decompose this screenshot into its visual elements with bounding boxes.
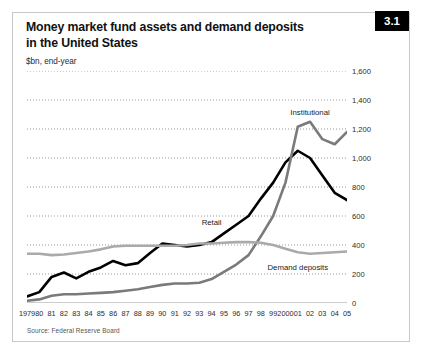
title-line-1: Money market fund assets and demand depo… [26,20,304,34]
x-axis-tick-label: 87 [121,309,129,318]
x-axis-tick-label: 01 [294,309,302,318]
x-axis-tick-label: 88 [134,309,142,318]
y-axis-tick-label: 400 [352,241,365,250]
x-axis-tick-label: 89 [146,309,154,318]
x-axis-tick-label: 83 [72,309,80,318]
x-axis-tick-label: 04 [331,309,339,318]
page-title: Money market fund assets and demand depo… [26,19,356,51]
y-axis-tick-label: 1,400 [352,96,371,105]
x-axis-tick-label: 92 [183,309,191,318]
x-axis-tick-label: 05 [343,309,351,318]
x-axis-ticks: 1979808182838485868788899091929394959697… [0,309,422,323]
y-axis-tick-label: 800 [352,183,365,192]
x-axis-tick-label: 96 [232,309,240,318]
x-axis-tick-label: 1979 [19,309,35,318]
x-axis-tick-label: 86 [109,309,117,318]
x-axis-tick-label: 98 [257,309,265,318]
x-axis-tick-label: 94 [208,309,216,318]
y-axis-tick-label: 200 [352,270,365,279]
series-label-institutional: Institutional [290,107,329,116]
figure-number-badge: 3.1 [375,11,409,31]
x-axis-tick-label: 99 [269,309,277,318]
title-line-2: in the United States [26,35,356,51]
x-axis-tick-label: 03 [318,309,326,318]
y-axis-tick-label: 0 [352,299,356,308]
x-axis-tick-label: 81 [48,309,56,318]
x-axis-tick-label: 80 [35,309,43,318]
x-axis-tick-label: 97 [244,309,252,318]
series-label-demand-deposits: Demand deposits [267,262,328,271]
x-axis-tick-label: 82 [60,309,68,318]
figure-panel: 3.1 Money market fund assets and demand … [0,0,422,363]
series-label-retail: Retail [202,217,222,226]
y-axis-tick-label: 1,200 [352,125,371,134]
source-note: Source: Federal Reserve Board [27,327,120,334]
chart-gridlines [27,71,347,274]
x-axis-tick-label: 95 [220,309,228,318]
x-axis-tick-label: 2000 [277,309,293,318]
y-axis-tick-label: 1,000 [352,154,371,163]
series-line-retail [27,151,347,297]
y-axis-tick-label: 1,600 [352,67,371,76]
x-axis-tick-label: 02 [306,309,314,318]
chart-subtitle: $bn, end-year [26,57,77,66]
x-axis-tick-label: 93 [195,309,203,318]
x-axis-tick-label: 85 [97,309,105,318]
x-axis-tick-label: 84 [84,309,92,318]
y-axis-tick-label: 600 [352,212,365,221]
series-line-demand-deposits [27,242,347,255]
x-axis-tick-label: 90 [158,309,166,318]
x-axis-tick-label: 91 [171,309,179,318]
